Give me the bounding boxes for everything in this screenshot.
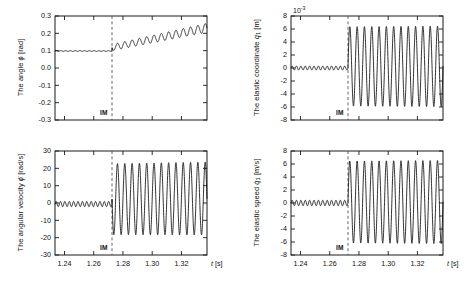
y-axis-title-angular-velocity: The angular velocity ϕ̇ [rad/s] [16, 131, 25, 275]
x-tick-label: 1.30 [136, 259, 168, 268]
y-tick-label: 0 [257, 63, 287, 72]
x-axis-unit: [s] [449, 259, 459, 268]
exponent-base: 10 [293, 7, 301, 14]
y-axis-title-symbol: q [252, 35, 261, 39]
y-tick-label: -30 [21, 250, 51, 259]
y-axis-title-prefix: The elastic coordinate [252, 39, 261, 116]
plot-area-elastic-coordinate [0, 0, 472, 283]
event-marker-label: IM [100, 244, 108, 251]
figure-four-subplots: -0.3-0.2-0.10.00.10.20.3IMThe angle ϕ [r… [0, 0, 472, 283]
x-tick-label: 1.30 [372, 259, 404, 268]
y-axis-title-subscript: 1 [255, 32, 261, 35]
y-tick-label: 10 [21, 181, 51, 190]
y-tick-label: 6 [257, 24, 287, 33]
y-tick-label: 2 [257, 185, 287, 194]
y-axis-title-angle: The angle ϕ [rad] [16, 0, 25, 140]
y-axis-title-unit: [m] [252, 19, 261, 32]
x-axis-title: t [s] [211, 259, 223, 268]
x-tick-label: 1.24 [49, 259, 81, 268]
y-tick-label: 4 [257, 37, 287, 46]
y-axis-title-unit: [rad/s] [16, 154, 25, 177]
x-tick-label: 1.32 [165, 259, 197, 268]
series-phi [55, 24, 207, 52]
y-tick-label: -4 [257, 224, 287, 233]
y-tick-label: 6 [257, 159, 287, 168]
event-marker-label: IM [336, 109, 344, 116]
y-tick-label: 8 [257, 146, 287, 155]
y-tick-label: 0.3 [21, 11, 51, 20]
y-tick-label: -4 [257, 89, 287, 98]
y-axis-title-unit: [m/s] [252, 159, 261, 178]
y-tick-label: 0.0 [21, 63, 51, 72]
x-axis-unit: [s] [213, 259, 223, 268]
y-axis-title-unit: [rad] [16, 39, 25, 56]
series-q1dot [291, 160, 443, 243]
plot-area-angle [0, 0, 472, 283]
y-tick-label: -8 [257, 250, 287, 259]
y-tick-label: 0 [21, 198, 51, 207]
x-tick-label: 1.26 [314, 259, 346, 268]
y-tick-label: -2 [257, 76, 287, 85]
y-axis-title-prefix: The angle [16, 60, 25, 96]
y-tick-label: -6 [257, 237, 287, 246]
y-tick-label: 20 [21, 164, 51, 173]
y-tick-label: 30 [21, 146, 51, 155]
y-axis-title-elastic-speed: The elastic speed q̇1 [m/s] [252, 131, 261, 275]
y-tick-label: 0 [257, 198, 287, 207]
y-tick-label: -20 [21, 233, 51, 242]
x-axis-title: t [s] [447, 259, 459, 268]
x-tick-label: 1.32 [401, 259, 433, 268]
x-tick-label: 1.26 [78, 259, 110, 268]
y-axis-title-subscript: 1 [255, 177, 261, 180]
y-tick-label: 2 [257, 50, 287, 59]
y-tick-label: -10 [21, 216, 51, 225]
event-marker-label: IM [336, 244, 344, 251]
y-axis-title-symbol: ϕ [16, 56, 25, 60]
y-tick-label: -2 [257, 211, 287, 220]
y-tick-label: -8 [257, 115, 287, 124]
y-tick-label: 4 [257, 172, 287, 181]
x-tick-label: 1.28 [107, 259, 139, 268]
y-tick-label: 0.1 [21, 46, 51, 55]
series-phidot [55, 162, 207, 235]
event-marker-label: IM [100, 109, 108, 116]
plot-area-elastic-speed [0, 0, 472, 283]
y-tick-label: -0.1 [21, 81, 51, 90]
plot-area-angular-velocity [0, 0, 472, 283]
y-tick-label: 0.2 [21, 29, 51, 38]
y-axis-title-symbol: ϕ̇ [16, 177, 25, 181]
y-tick-label: -6 [257, 102, 287, 111]
x-tick-label: 1.28 [343, 259, 375, 268]
axis-exponent-multiplier: 10-3 [293, 5, 305, 14]
y-axis-title-prefix: The elastic speed [252, 185, 261, 247]
x-tick-label: 1.24 [285, 259, 317, 268]
y-tick-label: -0.2 [21, 98, 51, 107]
y-axis-title-elastic-coordinate: The elastic coordinate q1 [m] [252, 0, 261, 140]
y-tick-label: 8 [257, 11, 287, 20]
y-axis-title-symbol: q̇ [252, 180, 261, 184]
series-q1 [291, 26, 443, 107]
y-axis-title-prefix: The angular velocity [16, 181, 25, 251]
y-tick-label: -0.3 [21, 115, 51, 124]
exponent-power: -3 [301, 5, 306, 11]
